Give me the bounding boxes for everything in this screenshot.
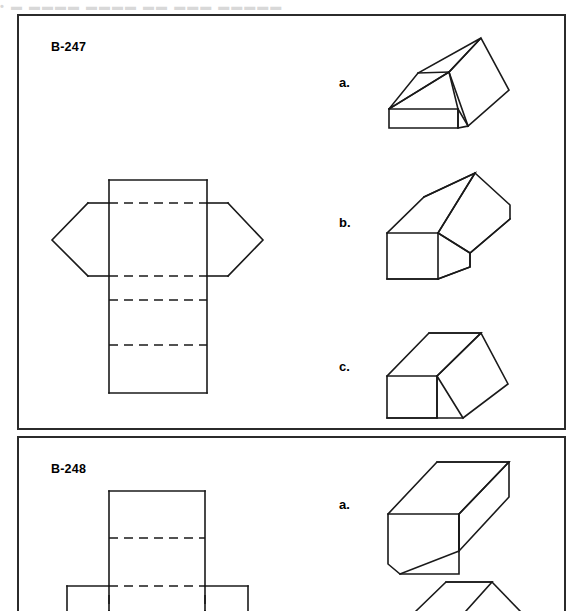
solid-edge-5 xyxy=(400,551,459,574)
solid-edge-2 xyxy=(492,582,520,611)
worksheet-page: • ▬ ▬▬▬▬ ▬▬▬▬ ▬▬ ▬▬▬ ▬▬▬▬▬ B-247 a. b. c… xyxy=(0,0,581,611)
solid-edge-1 xyxy=(388,462,509,514)
solid-edge-3 xyxy=(459,462,509,551)
net-b-248-solid-edges xyxy=(67,491,248,611)
net-b-248-fold-lines xyxy=(109,538,205,611)
exercise-b-248-drawings xyxy=(0,0,581,611)
solid-edge-0 xyxy=(416,582,492,611)
option-b-solid-partial-b-248 xyxy=(416,582,520,611)
option-a-solid-b-248 xyxy=(388,462,509,574)
net-b-248 xyxy=(67,491,248,611)
